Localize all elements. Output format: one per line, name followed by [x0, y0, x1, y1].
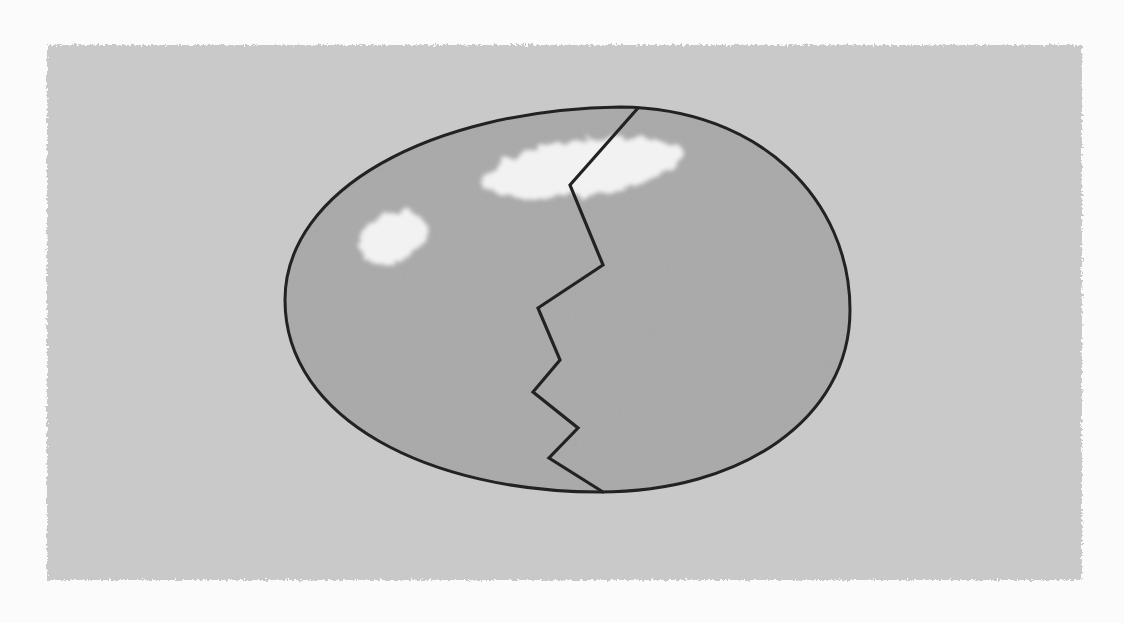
illustration-canvas [0, 0, 1124, 623]
cracked-egg-illustration [0, 0, 1124, 623]
